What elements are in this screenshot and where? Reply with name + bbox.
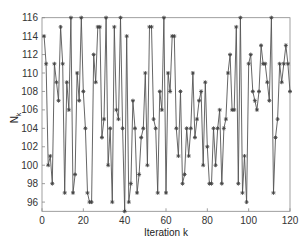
data-point-marker (191, 71, 195, 75)
data-point-marker (94, 80, 98, 84)
data-point-marker (121, 126, 125, 130)
data-point-marker (92, 53, 96, 57)
data-point-marker (65, 80, 69, 84)
data-point-marker (288, 89, 292, 93)
data-point-marker (85, 191, 89, 195)
data-point-marker (50, 182, 54, 186)
data-point-marker (129, 182, 133, 186)
data-point-marker (69, 16, 73, 20)
data-point-marker (178, 89, 182, 93)
data-point-marker (156, 191, 160, 195)
data-point-marker (197, 99, 201, 103)
data-point-marker (187, 154, 191, 158)
data-point-marker (162, 16, 166, 20)
y-tick-label: 108 (21, 86, 38, 97)
data-point-marker (185, 126, 189, 130)
data-point-marker (205, 145, 209, 149)
data-point-marker (133, 126, 137, 130)
x-tick-label: 80 (202, 215, 214, 226)
y-tick-label: 98 (27, 178, 39, 189)
data-point-marker (224, 117, 228, 121)
data-point-marker (57, 99, 61, 103)
data-point-marker (193, 136, 197, 140)
data-point-marker (145, 163, 149, 167)
data-point-marker (255, 108, 259, 112)
data-point-marker (48, 154, 52, 158)
data-point-marker (201, 163, 205, 167)
data-point-marker (108, 126, 112, 130)
data-point-marker (141, 126, 145, 130)
y-tick-label: 96 (27, 197, 39, 208)
data-point-marker (181, 182, 185, 186)
data-point-marker (263, 62, 267, 66)
data-point-marker (247, 62, 251, 66)
y-axis-label: Nk (9, 112, 22, 123)
data-point-marker (127, 200, 131, 204)
data-point-marker (106, 163, 110, 167)
data-point-marker (253, 99, 257, 103)
data-point-marker (160, 108, 164, 112)
data-point-marker (123, 209, 127, 213)
data-point-marker (209, 182, 213, 186)
data-point-marker (42, 34, 46, 38)
series-line (44, 18, 290, 212)
line-chart: 9698100102104106108110112114116 02040608… (0, 0, 304, 244)
data-point-marker (282, 62, 286, 66)
data-point-marker (214, 163, 218, 167)
data-point-marker (280, 80, 284, 84)
x-tick-label: 40 (119, 215, 131, 226)
data-point-marker (98, 25, 102, 29)
data-point-marker (220, 182, 224, 186)
data-point-marker (222, 126, 226, 130)
data-point-marker (81, 89, 85, 93)
data-point-marker (284, 43, 288, 47)
y-tick-label: 116 (22, 12, 38, 23)
data-point-marker (199, 89, 203, 93)
data-point-marker (83, 126, 87, 130)
data-point-marker (143, 71, 147, 75)
x-tick-label: 20 (78, 215, 90, 226)
data-point-marker (189, 126, 193, 130)
data-point-marker (52, 62, 56, 66)
data-point-marker (216, 126, 220, 130)
y-tick-label: 112 (22, 49, 38, 60)
data-point-marker (228, 53, 232, 57)
data-point-marker (125, 34, 129, 38)
y-tick-label: 102 (21, 141, 38, 152)
y-tick-label: 110 (22, 68, 38, 79)
x-tick-label: 100 (240, 215, 257, 226)
data-point-marker (135, 191, 139, 195)
data-point-marker (131, 99, 135, 103)
x-tick-label: 0 (39, 215, 45, 226)
data-point-marker (63, 191, 67, 195)
data-point-marker (61, 62, 65, 66)
x-axis-label: Iteration k (144, 227, 189, 238)
data-point-marker (67, 108, 71, 112)
data-point-marker (152, 117, 156, 121)
x-tick-label: 120 (282, 215, 299, 226)
data-point-marker (110, 200, 114, 204)
data-point-marker (226, 71, 230, 75)
data-point-marker (195, 117, 199, 121)
x-tick-label: 60 (160, 215, 172, 226)
data-point-marker (257, 89, 261, 93)
data-point-marker (245, 200, 249, 204)
data-point-marker (238, 16, 242, 20)
data-point-marker (183, 172, 187, 176)
data-point-marker (116, 117, 120, 121)
y-axis: 9698100102104106108110112114116 (21, 12, 45, 207)
data-point-marker (232, 108, 236, 112)
data-point-marker (236, 182, 240, 186)
data-point-marker (164, 191, 168, 195)
data-point-marker (79, 16, 83, 20)
data-point-marker (286, 62, 290, 66)
data-point-marker (203, 80, 207, 84)
data-point-marker (269, 16, 273, 20)
data-point-marker (90, 200, 94, 204)
data-point-marker (114, 108, 118, 112)
data-point-marker (166, 71, 170, 75)
data-point-marker (265, 80, 269, 84)
data-point-marker (104, 16, 108, 20)
data-point-marker (274, 136, 278, 140)
data-point-marker (259, 43, 263, 47)
